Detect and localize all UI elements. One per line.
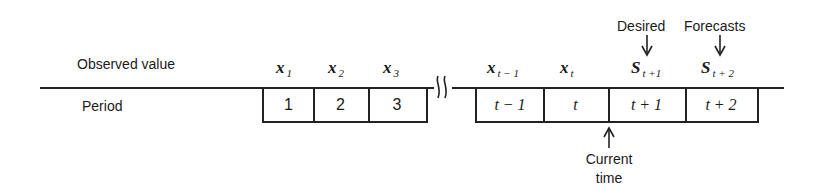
period-label: Period xyxy=(82,98,122,114)
axis-break-icon xyxy=(434,74,452,100)
current-time-label-line1: Current xyxy=(576,151,642,167)
forecast-s-t-plus-2: St + 2 xyxy=(701,58,734,79)
desired-label: Desired xyxy=(617,18,665,34)
observed-x-t: xt xyxy=(560,58,574,79)
period-box-1: 1 xyxy=(262,88,315,123)
period-box-t-minus-1: t − 1 xyxy=(475,88,545,123)
current-time-label-line2: time xyxy=(576,170,642,186)
period-box-t-plus-1: t + 1 xyxy=(608,88,687,123)
observed-value-label: Observed value xyxy=(77,56,175,72)
arrow-up-icon xyxy=(603,126,615,148)
observed-x3: x3 xyxy=(383,58,399,79)
observed-x1: x1 xyxy=(276,58,292,79)
observed-x2: x2 xyxy=(328,58,344,79)
forecasts-label: Forecasts xyxy=(684,18,745,34)
period-box-t-plus-2: t + 2 xyxy=(685,88,759,123)
arrow-down-icon xyxy=(714,35,726,57)
period-box-2: 2 xyxy=(313,88,370,123)
arrow-down-icon xyxy=(641,35,653,57)
period-box-3: 3 xyxy=(368,88,428,123)
observed-x-t-minus-1: xt − 1 xyxy=(487,58,519,79)
period-box-t: t xyxy=(543,88,610,123)
forecast-s-t-plus-1: St +1 xyxy=(631,58,661,79)
